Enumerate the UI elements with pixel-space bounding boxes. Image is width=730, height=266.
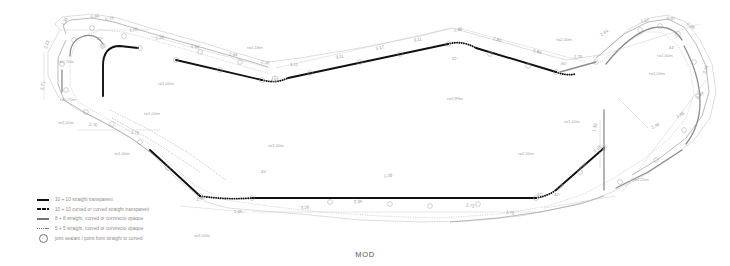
legend-item-4: + joint sealant / point from straight to… (36, 233, 246, 243)
thick-solid-line-icon (36, 195, 50, 204)
legend-item-label: 5 + 5 straight, curved or curvirecto opa… (55, 226, 143, 231)
legend-item-label: joint sealant / point from straight to c… (55, 236, 143, 241)
angle-label: 46° (561, 61, 568, 66)
dimension-label: 3,11 (290, 62, 299, 67)
legend-item-1: 10 + 10 curved or curved straight transp… (36, 205, 246, 215)
medium-solid-line-icon (36, 214, 50, 223)
angle-label: 44° (669, 45, 676, 50)
radius-label: r=1,00m (564, 119, 580, 124)
dimension-label: 3,34 (353, 199, 362, 205)
cad-drawing-canvas: 1,350,940,762,231,051,362,942,942,363,11… (0, 0, 730, 266)
drawing-title: MOD (0, 250, 730, 259)
radius-label: r=0,99m (447, 96, 463, 101)
dimension-label: 3,17 (375, 44, 385, 51)
legend-item-label: 10 + 10 curved or curved straight transp… (55, 207, 149, 212)
angle-label: 31° (452, 56, 459, 61)
dimension-label: 2,45 (650, 121, 660, 130)
radius-label: r=1,00m (144, 111, 160, 116)
radius-label: r=1,00m (158, 81, 174, 86)
dimension-label: 2,75 (506, 210, 516, 216)
dimension-label-group-top: 1,350,940,762,231,051,362,942,942,363,11… (43, 13, 696, 67)
angle-label: 32° (554, 192, 561, 197)
dimension-label: 2,70 (574, 54, 583, 59)
dimension-label: 1,88 (453, 27, 463, 33)
secondary-grey-outline (62, 27, 700, 190)
dimension-label: 2,80 (533, 48, 543, 55)
radius-label: r=1,58m (247, 45, 263, 50)
radius-label: r=1,00m (657, 53, 673, 58)
dimension-label: 2,64 (599, 28, 609, 37)
angle-label: 40° (97, 36, 104, 41)
dimension-label: 3,11 (335, 53, 345, 60)
thin-dotted-outline (110, 98, 648, 180)
radius-label: r=2,00m (556, 37, 572, 42)
primary-heavy-outline-top (103, 44, 556, 96)
dimension-label: 0,85 (686, 21, 696, 30)
dimension-label: 0,76 (105, 15, 115, 22)
dimension-label: 2,94 (191, 43, 201, 49)
dimension-label: 2,16 (702, 64, 709, 74)
radius-label: r=1,00m (58, 120, 74, 125)
dimension-label: 1,36 (155, 35, 165, 41)
radius-label: r=2,20m (633, 177, 649, 182)
dimension-label: 2,23 (43, 39, 51, 49)
primary-heavy-outline-bottom (150, 148, 604, 198)
dimension-label: 2,39 (695, 90, 705, 100)
radius-label: r=1,00m (649, 71, 665, 76)
joint-node-circle-icon: + (36, 234, 50, 243)
dimension-label: 0,94 (90, 13, 100, 19)
dimension-label: 1,38 (591, 122, 599, 132)
dimension-label: 1,28 (383, 173, 392, 179)
radius-label: r=3,00m (268, 143, 284, 148)
dimension-label: 0,87 (667, 16, 677, 22)
line-type-legend: 10 + 10 straight transparent 10 + 10 cur… (36, 195, 246, 243)
dimension-label: 2,16 (592, 144, 602, 154)
legend-item-0: 10 + 10 straight transparent (36, 195, 246, 205)
dimension-label: 2,94 (229, 51, 239, 57)
legend-item-label: 10 + 10 straight transparent (55, 197, 113, 202)
dimension-label: 2,76 (89, 122, 98, 128)
legend-item-2: 8 + 8 straight, curved or curvirecto opa… (36, 214, 246, 224)
dimension-label: 3,26 (300, 205, 309, 211)
dimension-label: 1,65 (675, 110, 685, 119)
radius-label: r=1,00m (114, 151, 130, 156)
dimension-label: 2,71 (39, 80, 46, 90)
radius-label: r=0,70m (58, 59, 74, 64)
dimension-label: 1,05 (129, 26, 139, 33)
dimension-lines (44, 24, 706, 212)
legend-item-label: 8 + 8 straight, curved or curvirecto opa… (55, 216, 143, 221)
angle-label: 45° (261, 169, 268, 174)
angle-label: 32° (537, 192, 544, 197)
thick-dashed-line-icon (36, 205, 50, 214)
legend-item-3: 5 + 5 straight, curved or curvirecto opa… (36, 224, 246, 234)
dimension-label: 3,11 (413, 36, 423, 43)
dimension-label: 2,75 (131, 130, 140, 136)
dimension-label-group-bottom: 2,962,053,263,341,282,732,752,162,052,16… (196, 64, 709, 215)
dimension-label: 1,27 (640, 17, 650, 23)
radius-label: r=2,00m (518, 151, 534, 156)
thin-dashed-line-icon (36, 224, 50, 233)
radius-label: r=0,70m (60, 97, 76, 102)
dimension-label: 2,73 (466, 203, 476, 209)
